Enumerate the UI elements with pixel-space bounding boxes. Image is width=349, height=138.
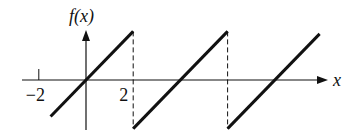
x-axis-arrow-icon: [317, 76, 328, 84]
sawtooth-chart: f(x) x −22: [0, 0, 349, 138]
y-axis-arrow-icon: [82, 30, 90, 41]
y-axis-label: f(x): [69, 6, 94, 27]
series-segment-3: [228, 34, 320, 129]
x-tick-label: 2: [119, 85, 128, 105]
x-axis-label: x: [332, 70, 341, 90]
x-tick-label: −2: [26, 85, 45, 105]
